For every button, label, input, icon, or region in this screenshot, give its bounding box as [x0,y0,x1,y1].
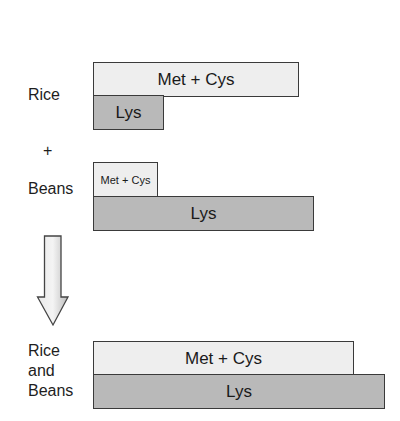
combined-met-cys-label: Met + Cys [185,349,262,369]
combined-met-cys-bar: Met + Cys [93,341,354,376]
combined-label-and: and [28,362,55,380]
combined-label-beans: Beans [28,382,73,400]
combined-label-rice: Rice [28,342,60,360]
combined-lys-label: Lys [226,382,252,402]
combined-lys-bar: Lys [93,374,385,409]
